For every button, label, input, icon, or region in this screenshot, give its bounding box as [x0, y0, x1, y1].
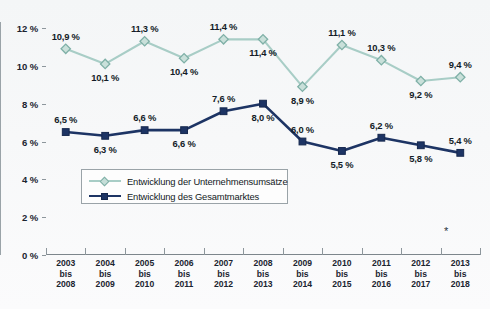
- y-axis-tick-mark: [42, 142, 46, 143]
- data-point-marker[interactable]: [339, 148, 346, 155]
- x-axis-tick-label: 2013bis2018: [436, 258, 484, 290]
- data-point-label: 9,2 %: [409, 88, 432, 99]
- x-axis-tick-mark: [125, 248, 126, 255]
- legend-label-gesamtmarkt: Entwicklung des Gesamtmarktes: [127, 191, 259, 202]
- data-point-label: 11,4 %: [249, 47, 276, 58]
- y-axis-tick-label: 12 %: [4, 23, 38, 34]
- data-point-marker[interactable]: [258, 35, 267, 44]
- data-point-label: 11,1 %: [328, 27, 355, 38]
- data-point-marker[interactable]: [299, 138, 306, 145]
- data-point-marker[interactable]: [260, 100, 267, 107]
- data-point-marker[interactable]: [140, 37, 149, 46]
- data-point-marker[interactable]: [378, 134, 385, 141]
- data-point-label: 8,0 %: [252, 111, 275, 122]
- data-point-label: 7,6 %: [212, 93, 235, 104]
- x-axis-tick-mark: [441, 248, 442, 255]
- x-axis-tick-mark: [480, 248, 481, 255]
- data-point-label: 10,9 %: [52, 30, 80, 41]
- data-point-marker[interactable]: [416, 76, 425, 85]
- y-axis-tick-mark: [42, 66, 46, 67]
- data-point-label: 11,3 %: [131, 23, 158, 34]
- data-point-marker[interactable]: [102, 132, 109, 139]
- data-point-label: 6,0 %: [291, 123, 314, 134]
- legend-item-gesamtmarkt[interactable]: Entwicklung des Gesamtmarktes: [88, 189, 281, 203]
- data-point-marker[interactable]: [179, 54, 188, 63]
- data-point-label: 10,3 %: [367, 42, 395, 53]
- legend-item-unternehmensumsaetze[interactable]: Entwicklung der Unternehmensumsätze: [88, 174, 281, 188]
- data-point-marker[interactable]: [181, 127, 188, 134]
- data-point-marker[interactable]: [457, 149, 464, 156]
- data-point-label: 5,4 %: [449, 134, 472, 145]
- x-axis-tick-mark: [85, 248, 86, 255]
- data-point-label: 11,4 %: [210, 21, 237, 32]
- data-point-marker[interactable]: [377, 55, 386, 64]
- data-point-label: 6,3 %: [94, 143, 117, 154]
- y-axis-tick-mark: [42, 28, 46, 29]
- data-point-label: 9,4 %: [449, 59, 472, 70]
- chart-screenshot: 0 %2 %4 %6 %8 %10 %12 % 2003bis20082004b…: [0, 0, 490, 309]
- y-axis-tick-label: 4 %: [4, 174, 38, 185]
- legend-marker-square-icon: [88, 190, 122, 202]
- x-axis-tick-mark: [283, 248, 284, 255]
- y-axis-line: [0, 22, 1, 255]
- y-axis-tick-label: 6 %: [4, 136, 38, 147]
- data-point-label: 5,5 %: [330, 158, 353, 169]
- data-point-marker[interactable]: [219, 35, 228, 44]
- x-axis-tick-mark: [362, 248, 363, 255]
- y-axis-tick-mark: [42, 255, 46, 256]
- data-point-label: 6,5 %: [54, 114, 77, 125]
- footnote-asterisk: *: [444, 228, 448, 234]
- x-axis-tick-mark: [164, 248, 165, 255]
- legend-marker-diamond-icon: [88, 175, 122, 187]
- data-point-marker[interactable]: [456, 73, 465, 82]
- x-axis-line: [46, 254, 480, 255]
- x-axis-tick-mark: [243, 248, 244, 255]
- x-axis-tick-mark: [46, 248, 47, 255]
- chart-legend: Entwicklung der Unternehmensumsätze Entw…: [81, 169, 288, 204]
- data-point-label: 6,6 %: [173, 138, 196, 149]
- series-gesamtmarkt: [62, 100, 463, 156]
- x-axis-tick-mark: [401, 248, 402, 255]
- legend-label-unternehmensumsaetze: Entwicklung der Unternehmensumsätze: [127, 176, 287, 187]
- data-point-marker[interactable]: [298, 82, 307, 91]
- data-point-label: 10,4 %: [170, 66, 198, 77]
- data-point-marker[interactable]: [337, 40, 346, 49]
- data-point-label: 5,8 %: [409, 153, 432, 164]
- data-point-label: 6,2 %: [370, 119, 393, 130]
- y-axis-tick-label: 10 %: [4, 60, 38, 71]
- y-axis-tick-label: 2 %: [4, 212, 38, 223]
- data-point-marker[interactable]: [61, 44, 70, 53]
- series-unternehmensumsaetze: [61, 35, 465, 92]
- y-axis-tick-mark: [42, 217, 46, 218]
- data-point-marker[interactable]: [417, 142, 424, 149]
- data-point-marker[interactable]: [62, 129, 69, 136]
- x-axis-tick-mark: [322, 248, 323, 255]
- data-point-label: 8,9 %: [291, 94, 314, 105]
- data-point-marker[interactable]: [141, 127, 148, 134]
- y-axis-tick-label: 8 %: [4, 98, 38, 109]
- data-point-marker[interactable]: [101, 59, 110, 68]
- x-axis-tick-mark: [204, 248, 205, 255]
- y-axis-tick-mark: [42, 179, 46, 180]
- y-axis-tick-label: 0 %: [4, 250, 38, 261]
- data-point-label: 10,1 %: [91, 71, 119, 82]
- y-axis-tick-mark: [42, 104, 46, 105]
- data-point-label: 6,6 %: [133, 112, 156, 123]
- data-point-marker[interactable]: [220, 108, 227, 115]
